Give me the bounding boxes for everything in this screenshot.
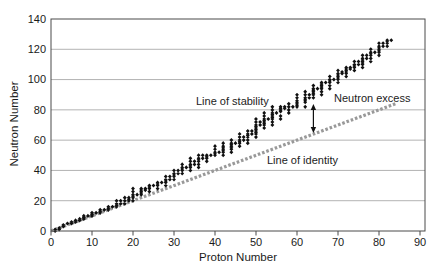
svg-text:80: 80	[373, 236, 385, 248]
svg-text:20: 20	[127, 236, 139, 248]
stability-chart: 0102030405060708090020406080100120140 Ne…	[0, 0, 445, 278]
y-axis-title: Neutron Number	[8, 81, 20, 166]
svg-text:60: 60	[34, 134, 46, 146]
plot-frame	[51, 19, 425, 231]
svg-text:10: 10	[86, 236, 98, 248]
svg-text:100: 100	[28, 73, 46, 85]
svg-text:140: 140	[28, 13, 46, 25]
svg-text:80: 80	[34, 104, 46, 116]
annotation-line-of-identity: Line of identity	[267, 154, 338, 166]
neutron-excess-arrow	[311, 104, 316, 133]
stability-scatter-points	[53, 38, 393, 233]
svg-text:60: 60	[291, 236, 303, 248]
svg-text:0: 0	[48, 236, 54, 248]
chart-canvas: 0102030405060708090020406080100120140	[0, 0, 445, 278]
svg-text:40: 40	[34, 164, 46, 176]
gridlines	[51, 49, 425, 200]
svg-text:90: 90	[414, 236, 426, 248]
svg-text:120: 120	[28, 43, 46, 55]
annotation-line-of-stability: Line of stability	[196, 95, 269, 107]
y-tick-labels: 020406080100120140	[28, 13, 46, 237]
svg-text:50: 50	[250, 236, 262, 248]
svg-text:40: 40	[209, 236, 221, 248]
svg-text:0: 0	[40, 225, 46, 237]
x-tick-labels: 0102030405060708090	[48, 231, 426, 248]
line-of-identity-dashes	[51, 104, 395, 231]
svg-text:70: 70	[332, 236, 344, 248]
x-axis-title: Proton Number	[51, 251, 425, 263]
annotation-neutron-excess: Neutron excess	[334, 92, 410, 104]
svg-text:30: 30	[168, 236, 180, 248]
svg-text:20: 20	[34, 195, 46, 207]
